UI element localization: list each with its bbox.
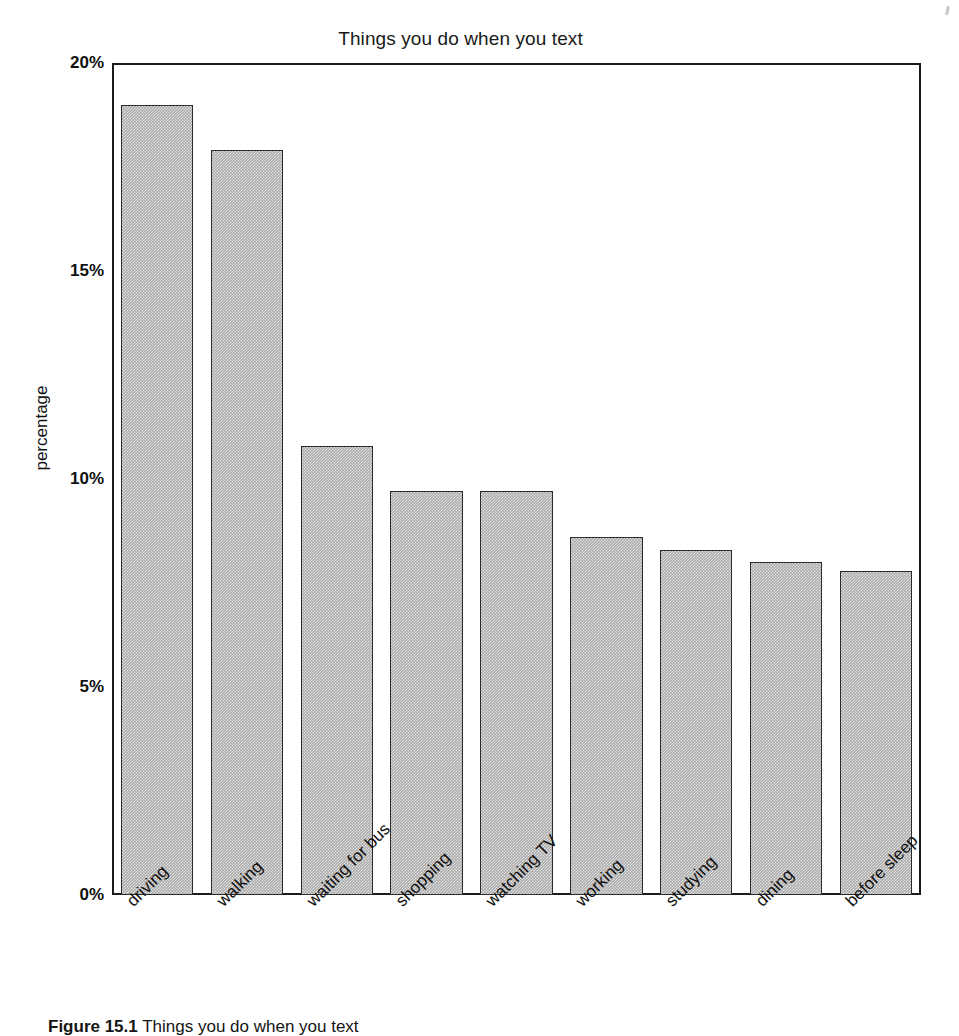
bar-studying [660, 550, 732, 895]
bar-walking [211, 150, 283, 895]
bar-dining [750, 562, 822, 895]
chart-title: Things you do when you text [0, 28, 921, 50]
caption-number: Figure 15.1 [48, 1017, 138, 1036]
bar-driving [121, 105, 193, 895]
y-tick-5pct: 5% [44, 677, 104, 697]
scan-artifact-speck [945, 6, 950, 15]
figure-caption: Figure 15.1 Things you do when you text [48, 1017, 928, 1036]
bar-waiting-for-bus [301, 446, 373, 895]
caption-text: Things you do when you text [142, 1017, 358, 1036]
bar-working [570, 537, 642, 895]
y-axis-tick-labels: 0%5%10%15%20% [42, 63, 104, 895]
plot-area [112, 63, 921, 895]
bar-shopping [390, 491, 462, 895]
x-axis-tick-labels: drivingwalkingwaiting for busshoppingwat… [112, 897, 921, 1007]
y-tick-15pct: 15% [44, 261, 104, 281]
y-tick-10pct: 10% [44, 469, 104, 489]
bar-watching-TV [480, 491, 552, 895]
figure-container: Things you do when you text percentage 0… [0, 0, 959, 1036]
y-tick-20pct: 20% [44, 53, 104, 73]
y-tick-0pct: 0% [44, 885, 104, 905]
